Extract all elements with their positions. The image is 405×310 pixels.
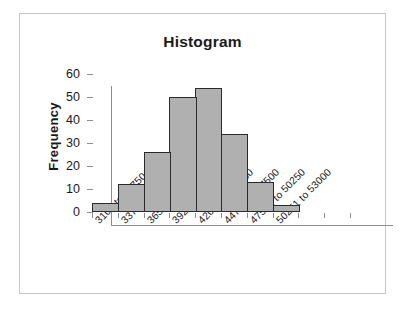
y-axis-tick-label-text: 60 [54, 68, 80, 81]
y-axis-tick-label: 10 [52, 183, 80, 195]
plot-area [92, 74, 358, 212]
y-axis-tick-label: 50 [52, 91, 80, 103]
x-axis-tick [350, 213, 351, 218]
y-axis-tick-label: 20 [52, 160, 80, 172]
histogram-bar [221, 134, 248, 212]
y-axis-tick-label-text: 0 [54, 206, 80, 219]
chart-title: Histogram [20, 33, 385, 51]
y-axis-tick-label: 40 [52, 114, 80, 126]
x-axis-tick [298, 213, 299, 218]
histogram-bar [247, 182, 274, 212]
y-axis-tick-label-text: 30 [54, 137, 80, 150]
histogram-bar [118, 184, 145, 212]
x-axis-tick [324, 213, 325, 218]
histogram-bar [144, 152, 171, 212]
y-axis-tick-label: 0 [52, 206, 80, 218]
histogram-bar [195, 88, 222, 212]
y-axis-tick-label-text: 40 [54, 114, 80, 127]
chart-frame: Histogram Frequency 0102030405060 3100 t… [19, 13, 386, 294]
y-axis-tick-label: 30 [52, 137, 80, 149]
y-axis-tick-label-text: 50 [54, 91, 80, 104]
y-axis-tick-label-text: 10 [54, 183, 80, 196]
histogram-bar [169, 97, 196, 212]
histogram-bar [273, 205, 300, 212]
y-axis-tick-label: 60 [52, 68, 80, 80]
y-axis-tick-label-text: 20 [54, 160, 80, 173]
histogram-bar [92, 203, 119, 212]
